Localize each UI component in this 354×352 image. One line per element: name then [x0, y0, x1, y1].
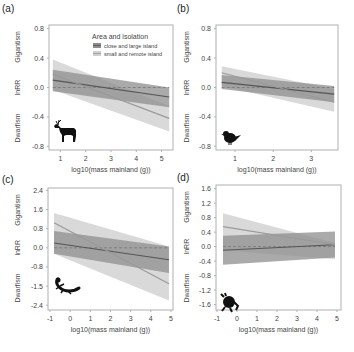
x-axis-label: log10(mass mainland (g)): [71, 166, 150, 174]
legend-item-label: small and remote island: [104, 51, 162, 57]
panel-label: (d): [177, 172, 189, 183]
y-tick-label: -0.8: [31, 263, 43, 270]
x-tick-label: 0: [68, 315, 72, 322]
y-tick-label: 0.4: [34, 55, 44, 62]
y-tick-label: -2.4: [31, 302, 43, 309]
y-label-gigantism: Gigantism: [14, 31, 22, 63]
y-axis-label: lnRR: [183, 80, 190, 96]
y-tick-label: 1.2: [201, 200, 211, 207]
y-tick-label: 0.4: [201, 229, 211, 236]
y-tick-label: 0.0: [201, 243, 211, 250]
panel-label: (c): [2, 174, 14, 185]
x-tick-label: 1: [255, 315, 259, 322]
x-tick-label: 2: [271, 155, 275, 162]
y-tick-label: 0.0: [33, 244, 43, 251]
panel-label: (b): [177, 3, 189, 14]
x-tick-label: -1: [214, 315, 220, 322]
y-tick-label: -0.8: [199, 143, 211, 150]
y-label-gigantism: Gigantism: [183, 31, 191, 63]
x-tick-label: 1: [233, 155, 237, 162]
lizard-icon: [56, 278, 80, 295]
x-tick-label: 0: [235, 315, 239, 322]
y-tick-label: -0.4: [199, 113, 211, 120]
legend-item-label: close and large island: [104, 43, 157, 49]
x-tick-label: 5: [169, 315, 173, 322]
y-tick-label: 0.8: [201, 214, 211, 221]
y-tick-label: -0.4: [199, 258, 211, 265]
y-tick-label: -1.6: [199, 301, 211, 308]
y-label-dwarfism: Dwarfism: [14, 113, 21, 142]
y-label-dwarfism: Dwarfism: [183, 113, 190, 142]
panel-label: (a): [2, 3, 14, 14]
x-tick-label: 3: [109, 155, 113, 162]
y-axis-label: lnRR: [14, 80, 21, 96]
x-tick-label: 2: [109, 315, 113, 322]
panel-c: (c)2.41.60.80.0-0.8-1.5-2.4-1012345log10…: [2, 174, 173, 334]
y-tick-label: -1.2: [199, 287, 211, 294]
x-tick-label: -1: [47, 315, 53, 322]
y-tick-label: 2.4: [33, 187, 43, 194]
y-label-dwarfism: Dwarfism: [14, 273, 21, 302]
frog-icon: [221, 293, 238, 312]
x-tick-label: 1: [58, 155, 62, 162]
figure: (a)0.80.40.0-0.4-0.812345log10(mass main…: [0, 0, 354, 352]
y-label-dwarfism: Dwarfism: [183, 273, 190, 302]
y-tick-label: 1.6: [33, 206, 43, 213]
y-tick-label: 0.8: [201, 25, 211, 32]
x-tick-label: 2: [275, 315, 279, 322]
y-tick-label: 0.8: [34, 25, 44, 32]
x-tick-label: 2: [84, 155, 88, 162]
y-tick-label: 0.8: [33, 225, 43, 232]
x-tick-label: 5: [335, 315, 339, 322]
y-label-gigantism: Gigantism: [183, 191, 191, 223]
y-tick-label: 1.6: [201, 185, 211, 192]
legend: Area and isolationclose and large island…: [92, 33, 162, 57]
y-tick-label: -0.8: [199, 272, 211, 279]
x-tick-label: 3: [129, 315, 133, 322]
x-axis-label: log10(mass mainland (g)): [71, 326, 150, 334]
y-tick-label: 0.0: [34, 84, 44, 91]
y-axis-label: lnRR: [183, 239, 190, 255]
bird-icon: [221, 131, 241, 145]
y-tick-label: -0.8: [32, 143, 44, 150]
deer-icon: [54, 120, 76, 142]
x-tick-label: 4: [134, 155, 138, 162]
x-tick-label: 1: [88, 315, 92, 322]
panel-b: (b)0.80.40.0-0.4-0.8123log10(mass mainla…: [177, 3, 338, 174]
y-tick-label: -0.4: [32, 113, 44, 120]
y-tick-label: -1.5: [31, 283, 43, 290]
panel-a: (a)0.80.40.0-0.4-0.812345log10(mass main…: [2, 3, 173, 174]
x-tick-label: 4: [315, 315, 319, 322]
x-tick-label: 3: [295, 315, 299, 322]
x-axis-label: log10(mass mainland (g)): [239, 326, 318, 334]
x-tick-label: 5: [160, 155, 164, 162]
x-axis-label: log10(mass mainland (g)): [237, 166, 316, 174]
y-tick-label: 0.4: [201, 55, 211, 62]
panel-d: (d)1.61.20.80.40.0-0.4-0.8-1.2-1.6-10123…: [177, 172, 341, 334]
x-tick-label: 3: [309, 155, 313, 162]
legend-title: Area and isolation: [92, 33, 148, 40]
y-label-gigantism: Gigantism: [14, 194, 22, 226]
x-tick-label: 4: [149, 315, 153, 322]
y-tick-label: 0.0: [201, 84, 211, 91]
y-axis-label: lnRR: [14, 240, 21, 256]
